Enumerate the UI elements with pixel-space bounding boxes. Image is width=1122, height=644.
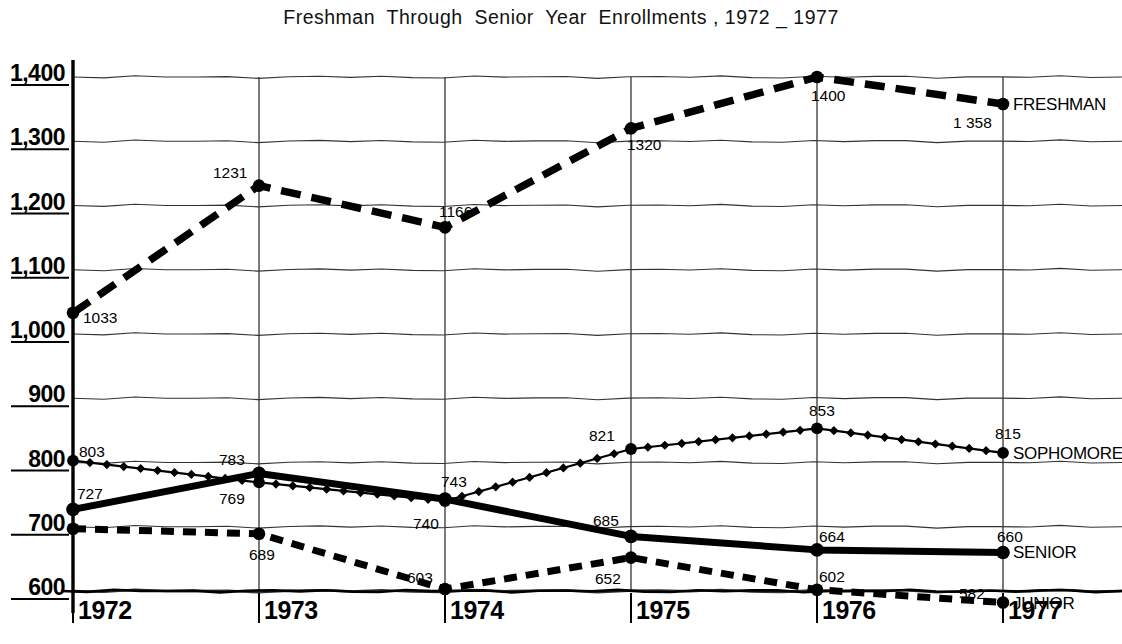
svg-text:1972: 1972 <box>78 596 132 624</box>
y-tick-labels: 6007008009001,0001,1001,2001,3001,400 <box>10 60 69 600</box>
svg-text:783: 783 <box>219 451 245 468</box>
svg-text:JUNIOR: JUNIOR <box>1013 594 1075 613</box>
svg-text:582: 582 <box>959 585 985 602</box>
svg-text:1320: 1320 <box>627 136 662 153</box>
series-end-labels: FRESHMANSOPHOMORESENIORJUNIOR <box>1013 95 1122 613</box>
svg-text:1,400: 1,400 <box>10 60 65 86</box>
svg-text:1973: 1973 <box>264 596 318 624</box>
svg-text:SOPHOMORE: SOPHOMORE <box>1013 444 1122 463</box>
svg-text:1166: 1166 <box>439 203 472 220</box>
svg-text:815: 815 <box>995 425 1021 442</box>
series-markers <box>66 71 1010 609</box>
series-lines <box>73 77 1003 603</box>
chart-plot-area: 6007008009001,0001,1001,2001,3001,400 19… <box>0 0 1122 644</box>
svg-text:600: 600 <box>28 574 65 600</box>
svg-text:803: 803 <box>79 443 105 460</box>
svg-text:1400: 1400 <box>811 87 846 104</box>
data-point-labels: 103312311166132014001 358803769740821853… <box>77 87 1023 602</box>
svg-text:652: 652 <box>595 570 621 587</box>
svg-text:727: 727 <box>77 485 103 502</box>
svg-text:800: 800 <box>28 446 65 472</box>
svg-text:689: 689 <box>249 546 275 563</box>
svg-text:1033: 1033 <box>83 309 117 326</box>
svg-text:853: 853 <box>809 402 835 419</box>
svg-text:1231: 1231 <box>213 164 247 181</box>
svg-text:900: 900 <box>28 381 65 407</box>
svg-text:740: 740 <box>413 515 439 532</box>
svg-text:602: 602 <box>819 568 845 585</box>
svg-text:1976: 1976 <box>822 596 876 624</box>
svg-text:821: 821 <box>589 427 615 444</box>
svg-text:685: 685 <box>593 512 619 529</box>
enrollment-line-chart: Freshman Through Senior Year Enrollments… <box>0 0 1122 644</box>
svg-text:1,000: 1,000 <box>10 317 65 343</box>
svg-text:1,100: 1,100 <box>10 253 65 279</box>
svg-text:1974: 1974 <box>450 596 504 624</box>
svg-text:SENIOR: SENIOR <box>1013 543 1076 562</box>
svg-text:769: 769 <box>219 490 245 507</box>
svg-text:1975: 1975 <box>636 596 690 624</box>
svg-text:FRESHMAN: FRESHMAN <box>1013 95 1106 114</box>
svg-text:1 358: 1 358 <box>953 114 992 131</box>
x-tick-labels: 197219731974197519761977 <box>73 593 1062 624</box>
svg-text:1,300: 1,300 <box>10 124 65 150</box>
svg-text:743: 743 <box>441 473 467 490</box>
svg-text:603: 603 <box>407 569 433 586</box>
svg-text:1,200: 1,200 <box>10 189 65 215</box>
svg-text:700: 700 <box>28 510 65 536</box>
svg-text:664: 664 <box>819 528 845 545</box>
